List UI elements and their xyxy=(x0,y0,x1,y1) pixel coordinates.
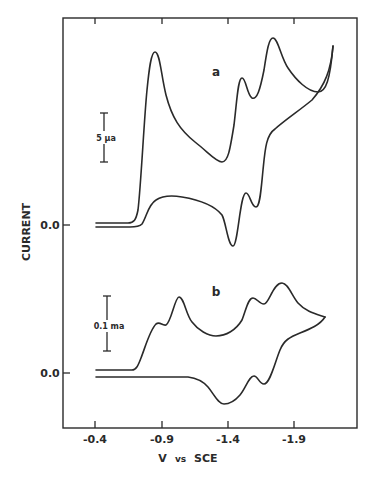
scale-bar-a: 5 µa xyxy=(96,113,116,162)
scale-bar-b: 0.1 ma xyxy=(94,296,125,351)
x-tick-label: -1.4 xyxy=(216,433,240,446)
curve-b-reverse xyxy=(96,317,325,404)
scale-label-b: 0.1 ma xyxy=(94,322,125,331)
x-tick-label: -0.9 xyxy=(150,433,174,446)
x-axis-label: VvsSCE xyxy=(158,452,217,465)
x-tick-label: -0.4 xyxy=(83,433,107,446)
zero-label-a: 0.0 xyxy=(40,219,60,232)
panel-label-b: b xyxy=(212,285,221,299)
y-axis-label: CURRENT xyxy=(20,202,33,261)
curve-b-forward xyxy=(96,283,325,370)
bottom-ticks xyxy=(95,421,294,428)
zero-label-b: 0.0 xyxy=(40,367,60,380)
scale-label-a: 5 µa xyxy=(96,134,116,143)
cyclic-voltammogram-chart: -0.4 -0.9 -1.4 -1.9 VvsSCE CURRENT 0.0 0… xyxy=(0,0,374,478)
x-tick-label: -1.9 xyxy=(282,433,306,446)
panel-label-a: a xyxy=(212,65,220,79)
top-ticks xyxy=(95,18,294,24)
